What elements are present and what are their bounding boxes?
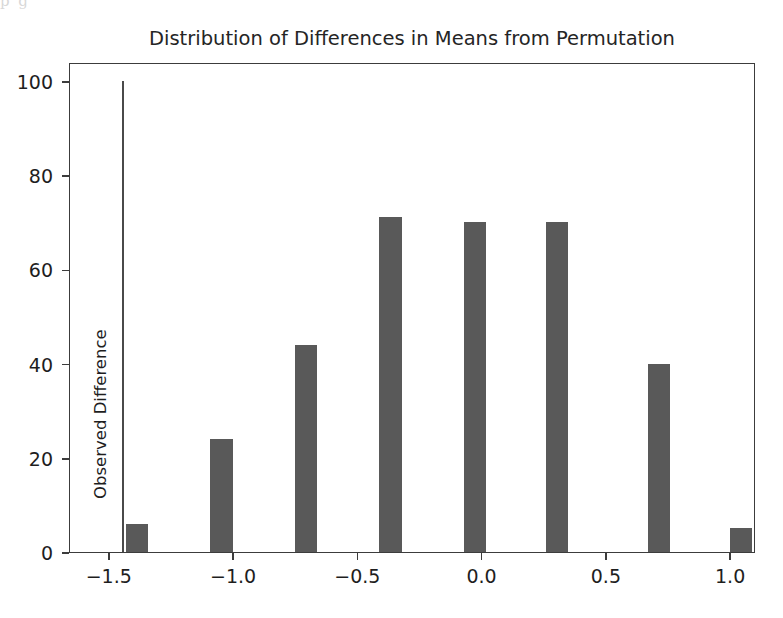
figure-canvas: Distribution of Differences in Means fro… — [0, 0, 783, 618]
x-tick-mark — [108, 553, 110, 560]
x-tick-mark — [605, 553, 607, 560]
histogram-bar — [648, 364, 670, 552]
x-tick-mark — [729, 553, 731, 560]
x-tick-mark — [481, 553, 483, 560]
y-tick-label: 60 — [0, 259, 53, 281]
y-tick-label: 40 — [0, 354, 53, 376]
y-tick-label: 100 — [0, 71, 53, 93]
histogram-bar — [379, 217, 401, 552]
observed-difference-line — [122, 81, 124, 552]
histogram-bar — [464, 222, 486, 552]
histogram-bar — [546, 222, 568, 552]
y-tick-mark — [62, 270, 69, 272]
x-tick-mark — [232, 553, 234, 560]
x-tick-label: 0.5 — [591, 565, 621, 587]
x-tick-mark — [357, 553, 359, 560]
y-tick-mark — [62, 552, 69, 554]
histogram-bar — [126, 524, 148, 552]
y-tick-mark — [62, 458, 69, 460]
observed-difference-label: Observed Difference — [91, 329, 110, 499]
x-tick-label: 0.0 — [466, 565, 496, 587]
plot-frame: Observed Difference — [69, 63, 755, 553]
y-tick-label: 80 — [0, 165, 53, 187]
y-tick-mark — [62, 364, 69, 366]
chart-title: Distribution of Differences in Means fro… — [69, 27, 755, 50]
x-tick-label: 1.0 — [715, 565, 745, 587]
y-tick-label: 20 — [0, 448, 53, 470]
y-tick-mark — [62, 81, 69, 83]
histogram-bar — [295, 345, 317, 552]
histogram-bar — [210, 439, 232, 552]
x-tick-label: −0.5 — [334, 565, 380, 587]
y-tick-label: 0 — [0, 542, 53, 564]
y-tick-mark — [62, 175, 69, 177]
plot-area: Observed Difference — [70, 64, 754, 552]
histogram-bar — [730, 528, 752, 552]
x-tick-label: −1.0 — [210, 565, 256, 587]
x-tick-label: −1.5 — [86, 565, 132, 587]
